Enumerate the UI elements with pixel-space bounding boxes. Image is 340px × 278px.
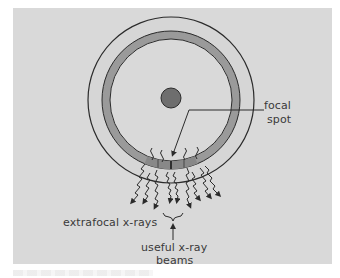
- useful-beam-bracket: [163, 213, 183, 221]
- useful-beams-label-line2: beams: [156, 254, 193, 267]
- useful-beams-label-line1: useful x-ray: [141, 241, 207, 254]
- focal-spot-label-line2: spot: [267, 113, 291, 126]
- focal-spot-label-line1: focal: [264, 99, 291, 112]
- anode-hub: [161, 88, 181, 108]
- rotating-anode-diagram: [0, 0, 340, 278]
- extrafocal-x-rays-label: extrafocal x-rays: [63, 216, 157, 229]
- caption-strip: [13, 270, 153, 276]
